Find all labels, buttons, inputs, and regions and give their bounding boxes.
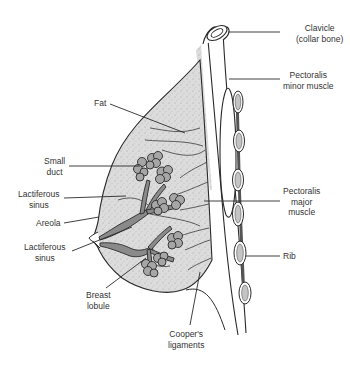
clavicle	[203, 22, 230, 44]
rib	[234, 130, 245, 152]
label-breast-lobule: Breast lobule	[86, 290, 111, 311]
label-pectoralis-major-muscle: Pectoralis major muscle	[283, 186, 320, 218]
breast-anatomy-diagram: Clavicle (collar bone) Pectoralis minor …	[0, 0, 350, 365]
rib	[239, 282, 251, 304]
label-fat: Fat	[94, 98, 106, 109]
rib	[234, 241, 246, 265]
leader-areola	[64, 217, 99, 223]
label-lactiferous-sinus-upper: Lactiferous sinus	[18, 189, 60, 210]
intercostal-band	[237, 95, 244, 300]
label-rib: Rib	[283, 251, 296, 262]
label-small-duct: Small duct	[44, 156, 65, 177]
diagram-canvas	[0, 0, 350, 365]
breast-lobule	[168, 232, 183, 250]
rib	[233, 91, 243, 113]
label-coopers-ligaments: Cooper's ligaments	[168, 329, 204, 350]
rib	[233, 169, 244, 191]
label-areola: Areola	[36, 218, 61, 229]
label-lactiferous-sinus-lower: Lactiferous sinus	[24, 242, 66, 263]
label-pectoralis-minor-muscle: Pectoralis minor muscle	[283, 70, 334, 91]
lower-skin-line	[186, 289, 225, 330]
rib	[233, 202, 244, 226]
label-clavicle: Clavicle (collar bone)	[296, 23, 343, 44]
breast-tissue	[92, 60, 212, 292]
